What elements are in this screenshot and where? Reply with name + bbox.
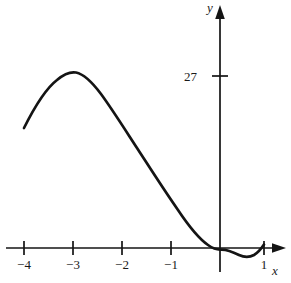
x-axis-arrowhead [272, 243, 286, 253]
x-tick-label-neg1: −1 [164, 258, 178, 271]
y-axis-arrowhead [215, 5, 225, 19]
y-axis-label: y [207, 1, 213, 14]
y-tick-label-27: 27 [184, 70, 197, 83]
graph-figure: −4 −3 −2 −1 1 27 x y [0, 0, 291, 283]
x-axis-label: x [272, 264, 278, 277]
x-tick-label-pos1: 1 [261, 258, 268, 271]
x-tick-label-neg2: −2 [115, 258, 129, 271]
x-tick-label-neg4: −4 [17, 258, 31, 271]
cubic-curve [24, 72, 264, 257]
x-tick-label-neg3: −3 [66, 258, 80, 271]
graph-canvas [0, 0, 291, 283]
